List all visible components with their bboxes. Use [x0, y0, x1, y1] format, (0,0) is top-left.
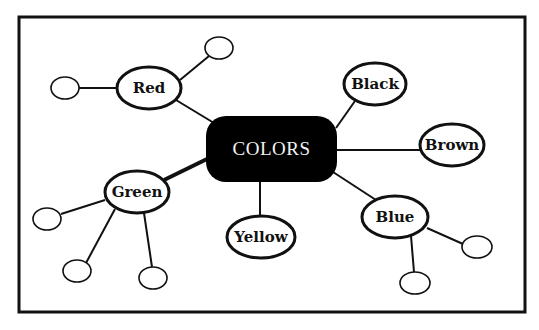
node-black: Black [344, 63, 406, 105]
empty-node-red-2 [205, 37, 233, 59]
node-black-label: Black [351, 75, 399, 93]
center-node-label: COLORS [233, 138, 311, 159]
empty-node-green-3 [139, 267, 167, 289]
node-green-label: Green [112, 183, 163, 201]
node-blue-label: Blue [376, 208, 415, 226]
node-yellow: Yellow [227, 216, 295, 258]
empty-node-red-1 [51, 77, 79, 99]
node-green: Green [105, 171, 169, 213]
node-red-label: Red [133, 79, 166, 97]
node-brown-label: Brown [425, 136, 479, 154]
empty-node-green-2 [63, 260, 91, 282]
node-yellow-label: Yellow [233, 228, 288, 246]
center-node: COLORS [206, 116, 337, 182]
empty-node-green-1 [33, 208, 61, 230]
empty-node-blue-2 [400, 272, 430, 294]
node-red: Red [117, 67, 181, 109]
empty-node-blue-1 [462, 236, 492, 258]
node-blue: Blue [362, 196, 428, 238]
node-brown: Brown [420, 124, 484, 166]
mind-map-diagram: COLORS Red Black Brown Green Yellow Blue [0, 0, 539, 330]
